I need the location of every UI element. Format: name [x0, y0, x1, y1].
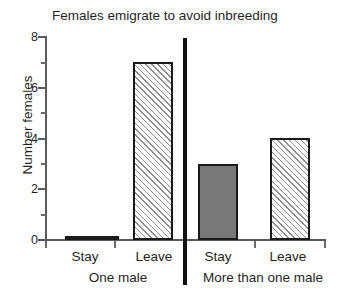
x-label-more-than-one-male-stay: Stay: [188, 249, 248, 265]
y-tick-8: [38, 36, 46, 38]
y-tick-label-4: 4: [4, 133, 38, 145]
y-tick-6: [38, 87, 46, 89]
bar-more-than-one-male-leave: [270, 138, 310, 240]
x-tick-right-edge: [324, 241, 326, 248]
bar-one-male-stay: [65, 236, 119, 240]
y-tick-label-8: 8: [4, 31, 38, 43]
y-tick-label-2: 2: [4, 183, 38, 195]
x-label-one-male-leave: Leave: [122, 249, 186, 265]
group-divider-line: [183, 38, 187, 285]
x-tick-divider-1: [114, 241, 116, 248]
y-tick-label-0: 0: [4, 234, 38, 246]
x-tick-left-edge: [45, 241, 47, 248]
y-tick-label-6: 6: [4, 82, 38, 94]
x-label-more-than-one-male-leave: Leave: [256, 249, 320, 265]
group-label-more-than-one-male: More than one male: [190, 270, 336, 286]
bar-more-than-one-male-stay: [198, 164, 238, 240]
y-tick-2: [38, 188, 46, 190]
y-tick-4: [38, 138, 46, 140]
x-tick-divider-2: [254, 241, 256, 248]
y-tick-label-group: 8 6 4 2 0: [0, 0, 38, 296]
chart-title: Females emigrate to avoid inbreeding: [52, 8, 302, 24]
x-label-one-male-stay: Stay: [55, 249, 115, 265]
bar-one-male-leave: [133, 62, 173, 240]
bar-chart: Females emigrate to avoid inbreeding Num…: [0, 0, 340, 296]
group-label-one-male: One male: [56, 270, 180, 286]
